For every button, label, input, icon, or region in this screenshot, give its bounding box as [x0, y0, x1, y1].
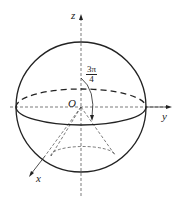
cone-edge-left: [51, 107, 81, 156]
sphere-diagram: [0, 0, 183, 204]
x-arrow: [29, 171, 34, 177]
z-label: z: [71, 9, 75, 21]
x-label: x: [36, 172, 41, 184]
angle-label: 3π 4: [86, 65, 97, 84]
y-arrow: [166, 105, 172, 109]
y-label: y: [162, 110, 167, 122]
origin-label: O: [68, 97, 76, 109]
cone-base: [51, 146, 115, 156]
z-arrow: [79, 14, 83, 20]
